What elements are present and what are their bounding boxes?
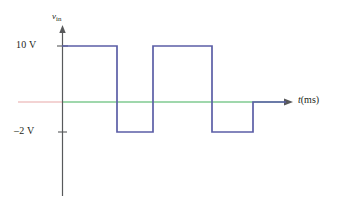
x-axis-label: t(ms) [298,95,319,105]
y-tick-label-10v: 10 V [16,40,36,50]
plot-canvas [0,0,344,201]
waveform-trace [62,46,286,132]
up-arrow-icon [59,25,65,33]
y-tick-label-minus2v: –2 V [14,126,34,136]
x-axis-label-unit: (ms) [301,94,319,105]
y-axis-label-subscript: in [56,15,62,23]
y-axis-label: vin [52,12,62,23]
waveform-figure: vin t(ms) 10 V –2 V [0,0,344,201]
